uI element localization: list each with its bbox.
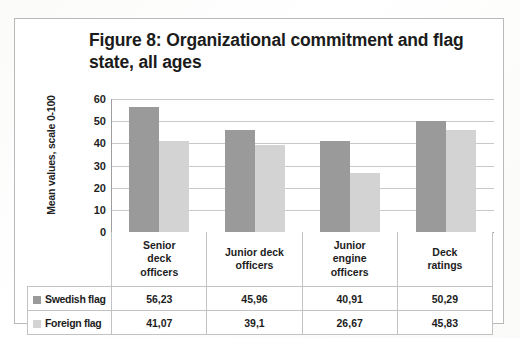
legend-swatch-icon: [33, 296, 41, 304]
legend-cell: Swedish flag: [28, 287, 112, 311]
bar: [129, 107, 159, 232]
table-header-row: SeniordeckofficersJunior deckofficersJun…: [28, 232, 493, 287]
y-tick-label-20: 20: [94, 182, 106, 194]
data-cell: 45,96: [207, 287, 302, 311]
legend-label: Swedish flag: [45, 293, 106, 305]
table-row: Foreign flag41,0739,126,6745,83: [28, 311, 493, 335]
bar: [446, 130, 476, 232]
bar-group: [111, 99, 207, 232]
y-tick-label-40: 40: [94, 137, 106, 149]
y-axis-title: Mean values, scale 0-100: [45, 90, 57, 220]
bar: [320, 141, 350, 232]
table-corner-cell: [28, 232, 112, 287]
bar: [416, 121, 446, 232]
bar: [255, 145, 285, 232]
bar-group: [302, 99, 398, 232]
category-header: Seniordeckofficers: [112, 232, 207, 287]
bar: [225, 130, 255, 232]
data-cell: 45,83: [397, 311, 492, 335]
data-table: SeniordeckofficersJunior deckofficersJun…: [27, 232, 493, 335]
figure-root: Figure 8: Organizational commitment and …: [0, 0, 520, 338]
data-cell: 41,07: [112, 311, 207, 335]
bars-layer: [111, 99, 493, 232]
data-cell: 50,29: [397, 287, 492, 311]
table-row: Swedish flag56,2345,9640,9150,29: [28, 287, 493, 311]
chart-frame: Figure 8: Organizational commitment and …: [14, 18, 504, 324]
legend-swatch-icon: [33, 320, 41, 328]
category-header: Junior deckofficers: [207, 232, 302, 287]
bar: [159, 141, 189, 232]
category-header: Deckratings: [397, 232, 492, 287]
y-tick-label-10: 10: [94, 204, 106, 216]
legend-cell: Foreign flag: [28, 311, 112, 335]
plot-wrapper: 6050403020100: [111, 99, 493, 232]
bar-group: [207, 99, 303, 232]
chart-title: Figure 8: Organizational commitment and …: [89, 29, 489, 74]
bar-group: [398, 99, 494, 232]
legend-label: Foreign flag: [45, 317, 101, 329]
y-tick-label-30: 30: [94, 160, 106, 172]
bar: [350, 173, 380, 232]
category-header: Juniorengineofficers: [302, 232, 397, 287]
y-tick-label-60: 60: [94, 93, 106, 105]
data-cell: 39,1: [207, 311, 302, 335]
data-cell: 56,23: [112, 287, 207, 311]
y-tick-label-50: 50: [94, 115, 106, 127]
data-cell: 26,67: [302, 311, 397, 335]
data-cell: 40,91: [302, 287, 397, 311]
